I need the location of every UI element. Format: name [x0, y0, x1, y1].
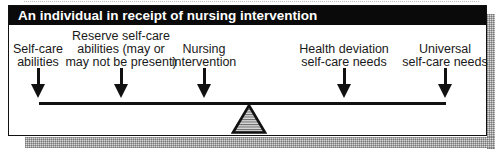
arrow-down-icon	[114, 68, 128, 100]
arrow-down-icon	[31, 68, 45, 100]
arrow-down-icon	[197, 68, 211, 100]
drop-shadow-right	[487, 14, 495, 149]
label-universal-self-care-needs: Universal self-care needs	[402, 43, 487, 69]
label-reserve-self-care-abilities: Reserve self-care abilities (may or may …	[65, 30, 176, 69]
drop-shadow-bottom	[25, 137, 495, 148]
diagram-frame: An individual in receipt of nursing inte…	[8, 5, 487, 136]
fulcrum-triangle-icon	[231, 104, 267, 134]
arrow-down-icon	[337, 68, 351, 100]
top-dotted-rule	[24, 1, 479, 2]
arrow-down-icon	[438, 68, 452, 100]
label-nursing-intervention: Nursing intervention	[172, 43, 237, 69]
diagram-title: An individual in receipt of nursing inte…	[9, 6, 486, 25]
label-health-deviation-self-care-needs: Health deviation self-care needs	[299, 43, 389, 69]
label-self-care-abilities: Self-care abilities	[13, 43, 63, 69]
